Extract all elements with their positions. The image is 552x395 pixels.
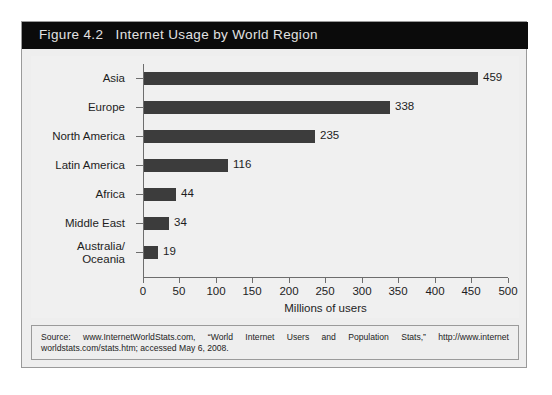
category-label: Africa [0, 188, 125, 201]
x-tick [252, 278, 253, 283]
y-tick [136, 252, 143, 253]
x-tick-label: 100 [196, 285, 236, 297]
figure-title-bar: Figure 4.2 Internet Usage by World Regio… [22, 22, 528, 49]
x-tick-label: 250 [305, 285, 345, 297]
figure-frame: Figure 4.2 Internet Usage by World Regio… [21, 21, 527, 368]
x-tick [362, 278, 363, 283]
x-tick-label: 350 [378, 285, 418, 297]
bar-value-label: 34 [174, 216, 187, 228]
source-box: Source: www.InternetWorldStats.com, “Wor… [31, 325, 519, 360]
x-axis-title: Millions of users [143, 302, 508, 314]
x-tick [216, 278, 217, 283]
category-label: Australia/ Oceania [0, 240, 125, 265]
bar-value-label: 44 [181, 187, 194, 199]
x-tick-label: 50 [159, 285, 199, 297]
bar-row: Africa 44 [31, 180, 519, 209]
x-tick-label: 450 [451, 285, 491, 297]
x-tick [289, 278, 290, 283]
category-label: Asia [0, 72, 125, 85]
x-tick-label: 200 [269, 285, 309, 297]
bar-row: Asia 459 [31, 64, 519, 93]
category-label: Europe [0, 101, 125, 114]
bar-row: North America 235 [31, 122, 519, 151]
bar-row: Middle East 34 [31, 209, 519, 238]
bar-latin-america[interactable] [144, 159, 228, 172]
bar-north-america[interactable] [144, 130, 315, 143]
y-tick [136, 165, 143, 166]
x-tick-label: 300 [342, 285, 382, 297]
y-tick [136, 223, 143, 224]
x-tick [143, 278, 144, 283]
x-tick-label: 500 [488, 285, 528, 297]
x-tick [471, 278, 472, 283]
x-tick [435, 278, 436, 283]
bar-value-label: 19 [163, 245, 176, 257]
bar-row: Europe 338 [31, 93, 519, 122]
bar-value-label: 235 [320, 129, 339, 141]
y-tick [136, 78, 143, 79]
y-tick [136, 107, 143, 108]
y-tick [136, 194, 143, 195]
x-tick-label: 400 [415, 285, 455, 297]
bar-row: Latin America 116 [31, 151, 519, 180]
x-tick [179, 278, 180, 283]
x-tick-label: 0 [123, 285, 163, 297]
x-tick [325, 278, 326, 283]
bar-europe[interactable] [144, 101, 390, 114]
bar-australia-oceania[interactable] [144, 246, 158, 259]
x-tick-label: 150 [232, 285, 272, 297]
x-tick [398, 278, 399, 283]
bar-value-label: 459 [483, 71, 502, 83]
y-tick [136, 136, 143, 137]
figure-title: Figure 4.2 Internet Usage by World Regio… [39, 27, 318, 42]
x-tick [508, 278, 509, 283]
bar-asia[interactable] [144, 72, 478, 85]
bar-row: Australia/ Oceania 19 [31, 238, 519, 267]
source-note: Source: www.InternetWorldStats.com, “Wor… [41, 332, 509, 354]
bar-value-label: 116 [233, 158, 251, 170]
bar-middle-east[interactable] [144, 217, 169, 230]
bar-value-label: 338 [395, 100, 414, 112]
plot-area: Asia 459 Europe 338 North America 235 La… [31, 56, 519, 318]
category-label: Middle East [0, 217, 125, 230]
category-label: Latin America [0, 159, 125, 172]
chart-panel: Asia 459 Europe 338 North America 235 La… [31, 56, 519, 318]
category-label: North America [0, 130, 125, 143]
bar-africa[interactable] [144, 188, 176, 201]
